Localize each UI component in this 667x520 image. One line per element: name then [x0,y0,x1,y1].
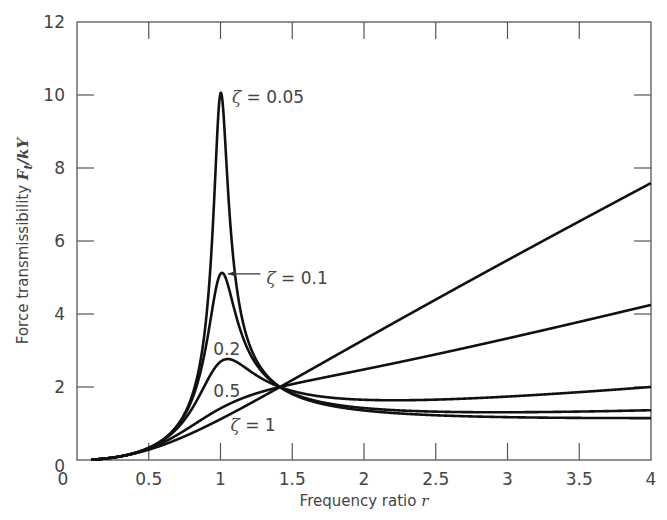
curve-label: 0.2 [213,339,240,359]
arrow-head-icon [228,271,236,277]
curve-label: ζ = 0.05 [232,87,304,107]
x-tick-label: 2.5 [422,469,449,489]
x-tick-label: 0.5 [135,469,162,489]
y-axis-title: Force transmissibility Ft/kY [14,137,35,345]
y-tick-label: 6 [54,231,65,251]
curve-label: ζ = 1 [231,415,276,435]
x-tick-label: 3 [502,469,513,489]
y-tick-label: 0 [54,456,65,476]
force-transmissibility-chart: 00.511.522.533.54024681012 ζ = 0.05ζ = 0… [0,0,667,520]
x-axis-title: Frequency ratio r [300,492,430,510]
x-tick-label: 4 [646,469,657,489]
x-tick-label: 1 [215,469,226,489]
y-tick-label: 2 [54,377,65,397]
x-tick-label: 2 [359,469,370,489]
curve-zeta-0_05 [91,93,651,460]
curve-label: ζ = 0.1 [266,268,327,288]
x-tick-label: 3.5 [566,469,593,489]
y-tick-label: 12 [43,12,65,32]
curve-label: 0.5 [213,381,240,401]
x-tick-label: 1.5 [279,469,306,489]
curve-zeta-0_5 [91,305,651,460]
y-tick-label: 8 [54,158,65,178]
y-tick-label: 4 [54,304,65,324]
transmissibility-curves [91,93,651,460]
y-tick-label: 10 [43,85,65,105]
